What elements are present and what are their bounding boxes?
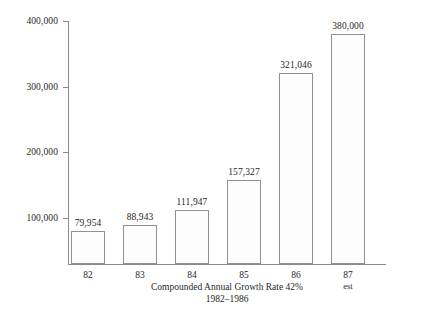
x-axis-line — [68, 264, 386, 265]
plot-area: 79,95488,943111,947157,327321,046380,000 — [68, 21, 386, 264]
bar — [71, 231, 105, 264]
bar — [175, 210, 209, 264]
x-axis-label: 85 — [218, 270, 270, 281]
chart-caption: Compounded Annual Growth Rate 42% 1982–1… — [68, 282, 386, 305]
x-axis-label: 82 — [62, 270, 114, 281]
x-axis-label-year: 85 — [239, 270, 249, 280]
x-axis-label-year: 87 — [343, 270, 353, 280]
y-axis-tick-label: 400,000 — [0, 16, 58, 26]
x-axis-label-year: 83 — [135, 270, 145, 280]
bar-value-label: 157,327 — [215, 167, 273, 177]
x-axis-label: 84 — [166, 270, 218, 281]
bar — [279, 73, 313, 264]
bar — [227, 180, 261, 264]
bar — [123, 225, 157, 264]
y-axis-tick-label: 100,000 — [0, 213, 58, 223]
x-axis-label-year: 86 — [291, 270, 301, 280]
bar — [331, 34, 365, 264]
x-axis-label: 86 — [270, 270, 322, 281]
caption-line-1: Compounded Annual Growth Rate 42% — [151, 282, 303, 292]
bar-value-label: 111,947 — [163, 197, 221, 207]
x-axis-label: 83 — [114, 270, 166, 281]
bar-value-label: 380,000 — [319, 21, 377, 31]
bar-value-label: 79,954 — [59, 218, 117, 228]
y-axis-tick-label: 200,000 — [0, 147, 58, 157]
bar-value-label: 88,943 — [111, 212, 169, 222]
bar-chart-figure: 400,000300,000200,000100,000 79,95488,94… — [0, 0, 428, 316]
x-axis-label-year: 84 — [187, 270, 197, 280]
y-axis-tick-label: 300,000 — [0, 82, 58, 92]
caption-line-2: 1982–1986 — [68, 294, 386, 306]
bar-value-label: 321,046 — [267, 60, 325, 70]
x-axis-label-year: 82 — [83, 270, 93, 280]
